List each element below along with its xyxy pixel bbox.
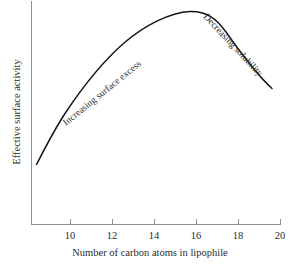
y-axis-title: Effective surface activity: [11, 59, 22, 165]
x-tick-label: 12: [107, 230, 118, 241]
x-axis-title: Number of carbon atoms in lipophile: [72, 247, 228, 258]
annotation-decreasing-solubility: Decreasing solubility: [202, 11, 266, 78]
x-tick-label: 14: [149, 230, 160, 241]
x-tick-label: 10: [65, 230, 76, 241]
data-curve: [37, 11, 273, 164]
x-axis-tick-labels: 10 12 14 16 18 20: [65, 230, 286, 241]
x-tick-label: 20: [275, 230, 286, 241]
x-tick-label: 18: [233, 230, 244, 241]
plot-area: 10 12 14 16 18 20 Number of carbon atoms…: [0, 0, 293, 268]
chart-figure: 10 12 14 16 18 20 Number of carbon atoms…: [0, 0, 293, 268]
x-tick-label: 16: [191, 230, 202, 241]
annotation-increasing-surface-excess: Increasing surface excess: [60, 57, 143, 127]
x-axis-ticks: [71, 219, 281, 225]
